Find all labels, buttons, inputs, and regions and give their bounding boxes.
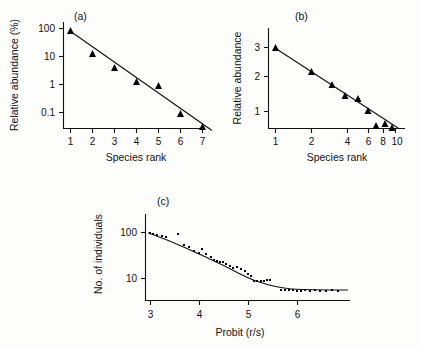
panel-a-ytick-0.1: 0.1: [41, 107, 55, 118]
panel-a-data-markers: [67, 27, 206, 130]
panel-b-xtick-10: 10: [391, 136, 403, 147]
panel-b-ytick-1: 1: [254, 106, 260, 117]
panel-b-xtick-4: 4: [345, 136, 351, 147]
panel-c-y-ticks: [141, 233, 146, 279]
panel-b: 3 2 1 1 2 4 6 8 10: [215, 0, 421, 175]
panel-b-x-ticks: [276, 129, 396, 134]
panel-a-x-ticks: [71, 129, 203, 134]
panel-c-data-points: [149, 232, 339, 292]
panel-b-xtick-2: 2: [309, 136, 315, 147]
panel-c-ytick-100: 100: [120, 227, 137, 238]
panel-a-fit-line: [70, 31, 212, 131]
panel-a-xtick-7: 7: [200, 136, 206, 147]
panel-b-yaxis-title: Relative abundance: [231, 31, 243, 124]
panel-a-ytick-1: 1: [49, 79, 55, 90]
panel-a-xtick-3: 3: [112, 136, 118, 147]
panel-a-axes: [64, 22, 206, 129]
panel-c-x-ticks: [151, 301, 298, 306]
panel-b-fit-line: [275, 48, 398, 128]
panel-a-ytick-100: 100: [38, 23, 55, 34]
panel-a: 100 10 1 0.1 1 2 3 4 5 6 7: [0, 0, 215, 175]
panel-a-xaxis-title: Species rank: [106, 151, 167, 163]
figure-panel-group: 100 10 1 0.1 1 2 3 4 5 6 7: [0, 0, 421, 348]
panel-c-ytick-10: 10: [126, 273, 138, 284]
panel-a-y-ticks: [59, 29, 64, 113]
panel-a-xtick-6: 6: [178, 136, 184, 147]
panel-c-xtick-3: 3: [148, 309, 154, 320]
panel-b-xtick-8: 8: [380, 136, 386, 147]
panel-b-xaxis-title: Species rank: [307, 151, 368, 163]
panel-c-xtick-6: 6: [295, 309, 301, 320]
panel-a-xtick-5: 5: [156, 136, 162, 147]
panel-c-xtick-4: 4: [197, 309, 203, 320]
panel-a-xtick-4: 4: [134, 136, 140, 147]
panel-b-data-markers: [272, 44, 396, 131]
panel-b-y-ticks: [264, 48, 269, 112]
panel-c-axes: [146, 214, 351, 301]
panel-b-xtick-1: 1: [273, 136, 279, 147]
panel-a-plot: 100 10 1 0.1 1 2 3 4 5 6 7: [0, 0, 215, 175]
panel-a-ytick-10: 10: [44, 51, 56, 62]
panel-a-label: (a): [74, 10, 87, 22]
panel-a-yaxis-title: Relative abundance (%): [8, 19, 20, 131]
panel-b-axes: [269, 28, 406, 129]
panel-c-trend-curve: [148, 233, 348, 290]
panel-b-label: (b): [295, 10, 308, 22]
panel-c-yaxis-title: No. of individuals: [92, 214, 104, 294]
panel-c-plot: 100 10 3 4 5 6: [60, 188, 360, 348]
panel-c-xaxis-title: Probit (r/s): [215, 326, 264, 338]
panel-b-plot: 3 2 1 1 2 4 6 8 10: [215, 0, 421, 175]
panel-b-ytick-3: 3: [254, 42, 260, 53]
panel-b-ytick-2: 2: [254, 71, 260, 82]
panel-c-label: (c): [157, 195, 169, 207]
panel-a-xtick-2: 2: [90, 136, 96, 147]
panel-b-xtick-6: 6: [366, 136, 372, 147]
panel-a-xtick-1: 1: [68, 136, 74, 147]
panel-c-xtick-5: 5: [246, 309, 252, 320]
panel-c: 100 10 3 4 5 6: [60, 188, 360, 348]
